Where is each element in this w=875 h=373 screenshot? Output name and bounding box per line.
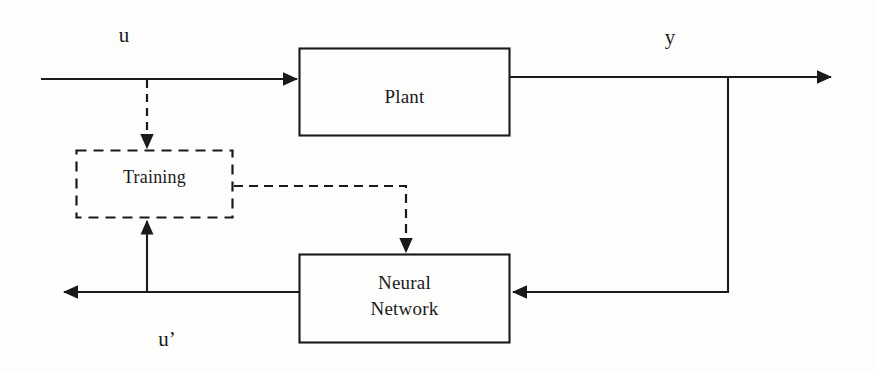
connector-y-feedback-to-nn — [513, 78, 728, 292]
block-label-neural-network: Neural Network — [299, 270, 510, 322]
signal-label-u: u — [94, 24, 154, 46]
block-label-plant: Plant — [299, 84, 510, 110]
block-diagram-canvas: Plant Neural Network Training u y u’ — [0, 0, 875, 373]
signal-label-y: y — [640, 26, 700, 48]
block-label-training: Training — [76, 164, 233, 190]
connector-training-to-nn — [234, 186, 406, 252]
signal-label-u-prime: u’ — [137, 328, 197, 350]
